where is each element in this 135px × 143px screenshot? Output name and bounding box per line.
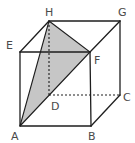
- vertex-label-d: D: [51, 100, 59, 113]
- vertex-label-c: C: [123, 91, 131, 104]
- vertex-label-e: E: [6, 39, 13, 52]
- vertex-label-a: A: [11, 130, 19, 143]
- cube-diagram: H G E F D C A B: [0, 0, 135, 143]
- vertex-label-h: H: [45, 6, 53, 19]
- edge-bf: [90, 52, 91, 126]
- vertex-label-f: F: [94, 54, 100, 67]
- vertex-label-b: B: [88, 130, 96, 143]
- vertex-label-g: G: [118, 6, 127, 19]
- edge-cb: [91, 95, 120, 126]
- edge-gf: [90, 21, 120, 52]
